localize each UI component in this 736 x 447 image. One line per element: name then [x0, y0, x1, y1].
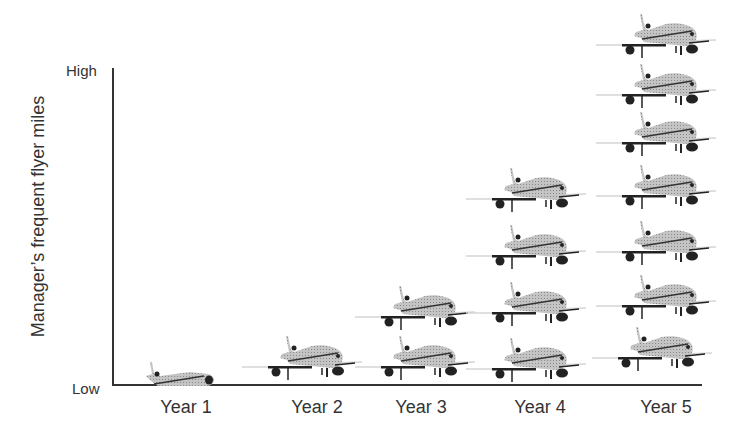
airplane-icon: [596, 12, 716, 62]
x-label-year-3: Year 3: [376, 397, 466, 418]
airplane-icon: [466, 280, 586, 330]
airplane-icon: [596, 110, 716, 160]
airplane-icon: [596, 62, 716, 112]
x-label-year-5: Year 5: [621, 397, 711, 418]
airplane-icon: [466, 166, 586, 216]
airplane-icon: [596, 163, 716, 213]
airplane-icon: [596, 273, 716, 323]
y-axis-label: Manager’s frequent flyer miles: [28, 72, 49, 362]
y-axis: [112, 68, 114, 386]
x-label-year-2: Year 2: [272, 397, 362, 418]
airplane-icon: [355, 334, 475, 384]
airplane-icon: [466, 223, 586, 273]
y-tick-low: Low: [72, 380, 100, 397]
airplane-icon: [138, 358, 218, 388]
airplane-icon: [592, 325, 712, 375]
x-label-year-4: Year 4: [495, 397, 585, 418]
y-tick-high: High: [66, 62, 97, 79]
airplane-icon: [355, 284, 475, 334]
airplane-icon: [596, 219, 716, 269]
airplane-icon: [242, 334, 362, 384]
x-label-year-1: Year 1: [141, 397, 231, 418]
airplane-icon: [466, 336, 586, 386]
